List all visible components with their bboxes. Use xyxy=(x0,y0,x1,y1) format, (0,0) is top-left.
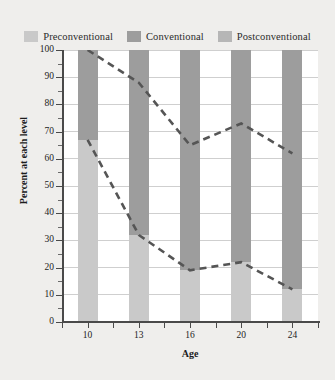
bar-stack[interactable] xyxy=(78,50,98,322)
y-tick-label: 30 xyxy=(4,234,54,244)
y-tick-mark xyxy=(56,50,62,51)
x-tick-mark-boundary xyxy=(113,323,114,328)
chart-figure: Preconventional Conventional Postconvent… xyxy=(0,0,335,380)
legend-item-conventional[interactable]: Conventional xyxy=(127,31,204,42)
y-tick-label: 60 xyxy=(4,153,54,163)
x-axis-title: Age xyxy=(62,348,318,359)
y-tick-mark xyxy=(56,213,62,214)
x-tick-label: 24 xyxy=(277,330,307,340)
bar-stack[interactable] xyxy=(231,50,251,322)
x-tick-mark-boundary xyxy=(267,323,268,328)
x-axis-line xyxy=(62,321,320,323)
bar-segment[interactable] xyxy=(180,50,200,270)
y-tick-label: 50 xyxy=(4,180,54,190)
y-tick-mark-minor xyxy=(58,91,62,92)
bar-stack[interactable] xyxy=(129,50,149,322)
y-tick-mark-minor xyxy=(58,172,62,173)
y-tick-mark xyxy=(56,104,62,105)
y-tick-label: 40 xyxy=(4,207,54,217)
plot-frame xyxy=(62,50,318,322)
x-tick-mark xyxy=(88,323,89,328)
bar-segment[interactable] xyxy=(78,140,98,322)
y-tick-label: 70 xyxy=(4,126,54,136)
y-tick-mark xyxy=(56,268,62,269)
y-tick-label: 90 xyxy=(4,71,54,81)
y-tick-mark xyxy=(56,132,62,133)
x-tick-mark-boundary xyxy=(216,323,217,328)
y-tick-mark xyxy=(56,77,62,78)
y-tick-mark xyxy=(56,240,62,241)
y-tick-mark xyxy=(56,186,62,187)
x-tick-mark xyxy=(139,323,140,328)
bar-stack[interactable] xyxy=(282,50,302,322)
x-tick-label: 13 xyxy=(124,330,154,340)
y-tick-mark-minor xyxy=(58,308,62,309)
y-tick-mark-minor xyxy=(58,118,62,119)
bar-segment[interactable] xyxy=(78,50,98,140)
bar-segment[interactable] xyxy=(231,262,251,322)
bar-segment[interactable] xyxy=(282,289,302,322)
x-tick-mark-boundary xyxy=(318,323,319,328)
x-tick-mark-boundary xyxy=(164,323,165,328)
y-tick-label: 0 xyxy=(4,316,54,326)
legend-label-conventional: Conventional xyxy=(146,31,204,42)
x-tick-mark-boundary xyxy=(62,323,63,328)
y-axis-line xyxy=(62,50,64,322)
x-tick-mark xyxy=(190,323,191,328)
y-tick-mark-minor xyxy=(58,254,62,255)
x-tick-mark xyxy=(241,323,242,328)
y-tick-mark xyxy=(56,295,62,296)
bar-segment[interactable] xyxy=(129,235,149,322)
x-tick-mark xyxy=(292,323,293,328)
legend-label-postconventional: Postconventional xyxy=(237,31,311,42)
bar-segment[interactable] xyxy=(129,50,149,235)
x-tick-label: 20 xyxy=(226,330,256,340)
y-tick-label: 80 xyxy=(4,98,54,108)
y-axis-title: Percent at each level xyxy=(18,76,29,246)
bar-segment[interactable] xyxy=(231,50,251,262)
bar-stack[interactable] xyxy=(180,50,200,322)
y-tick-mark-minor xyxy=(58,64,62,65)
y-tick-mark-minor xyxy=(58,227,62,228)
legend-swatch-icon xyxy=(218,31,232,42)
x-tick-label: 16 xyxy=(175,330,205,340)
legend-swatch-icon xyxy=(127,31,141,42)
legend-item-postconventional[interactable]: Postconventional xyxy=(218,31,311,42)
y-tick-label: 20 xyxy=(4,262,54,272)
x-tick-label: 10 xyxy=(73,330,103,340)
y-tick-label: 100 xyxy=(4,44,54,54)
bar-segment[interactable] xyxy=(180,270,200,322)
y-tick-mark-minor xyxy=(58,200,62,201)
y-tick-mark xyxy=(56,159,62,160)
y-tick-label: 10 xyxy=(4,289,54,299)
y-tick-mark-minor xyxy=(58,281,62,282)
plot-area xyxy=(62,50,318,322)
bar-segment[interactable] xyxy=(282,50,302,289)
y-tick-mark-minor xyxy=(58,145,62,146)
